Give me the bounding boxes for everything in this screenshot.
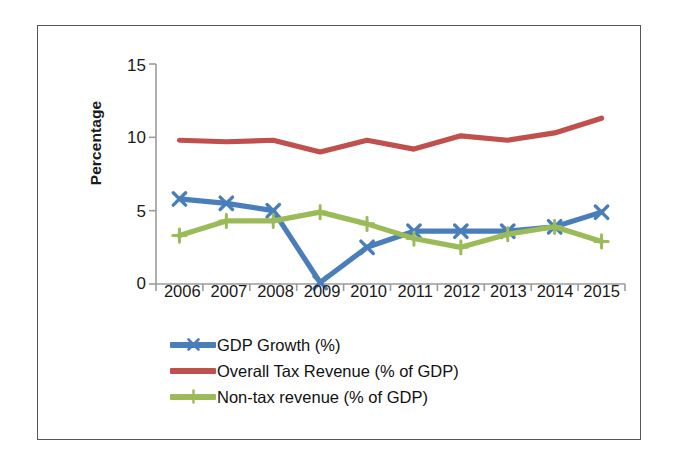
data-point-marker xyxy=(220,214,233,227)
x-tick-label-2011: 2011 xyxy=(392,283,439,311)
legend-swatch-non-tax-revenue xyxy=(170,388,216,406)
x-tick-label-2014: 2014 xyxy=(532,283,579,311)
x-tick-label-2012: 2012 xyxy=(439,283,486,311)
x-tick-label-2009: 2009 xyxy=(299,283,346,311)
chart-plot-area: Percentage 15 10 5 0 2006 2007 2008 2009… xyxy=(38,26,642,441)
data-point-marker xyxy=(360,217,373,230)
x-tick-label-2015: 2015 xyxy=(578,283,625,311)
series-gdp-growth xyxy=(173,193,608,289)
chart-frame: Percentage 15 10 5 0 2006 2007 2008 2009… xyxy=(37,25,641,440)
legend-label-overall-tax-revenue: Overall Tax Revenue (% of GDP) xyxy=(217,363,459,380)
series-line xyxy=(179,199,601,283)
legend-item-gdp-growth[interactable]: GDP Growth (%) xyxy=(170,332,590,358)
data-point-marker xyxy=(595,235,608,248)
x-tick-label-2010: 2010 xyxy=(345,283,392,311)
x-tick-label-2013: 2013 xyxy=(485,283,532,311)
x-axis-tick-labels: 2006 2007 2008 2009 2010 2011 2012 2013 … xyxy=(159,283,625,311)
legend-label-gdp-growth: GDP Growth (%) xyxy=(217,337,340,354)
chart-legend: GDP Growth (%) Overall Tax Revenue (% of… xyxy=(170,332,590,410)
series-line xyxy=(179,212,601,247)
y-axis-ticks xyxy=(149,64,156,284)
series-line xyxy=(179,118,601,152)
legend-item-non-tax-revenue[interactable]: Non-tax revenue (% of GDP) xyxy=(170,384,590,410)
x-marker-icon xyxy=(186,337,201,352)
plus-marker-icon xyxy=(186,389,201,404)
series-overall-tax-revenue-of-gdp xyxy=(179,118,601,152)
series-layer xyxy=(173,118,608,288)
x-tick-label-2008: 2008 xyxy=(252,283,299,311)
data-point-marker xyxy=(454,241,467,254)
legend-swatch-overall-tax-revenue xyxy=(170,362,216,380)
data-point-marker xyxy=(314,206,327,219)
legend-swatch-gdp-growth xyxy=(170,336,216,354)
series-non-tax-revenue-of-gdp xyxy=(173,206,608,254)
legend-label-non-tax-revenue: Non-tax revenue (% of GDP) xyxy=(217,389,428,406)
x-tick-label-2007: 2007 xyxy=(206,283,253,311)
legend-item-overall-tax-revenue[interactable]: Overall Tax Revenue (% of GDP) xyxy=(170,358,590,384)
legend-line-overall-tax-revenue xyxy=(170,368,216,374)
x-tick-label-2006: 2006 xyxy=(159,283,206,311)
data-point-marker xyxy=(173,229,186,242)
